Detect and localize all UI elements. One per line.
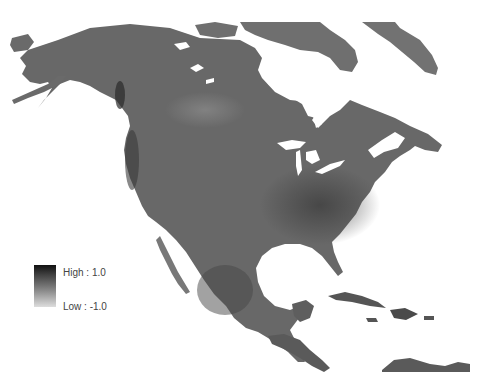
north-america-map bbox=[0, 0, 484, 380]
central-america bbox=[268, 334, 330, 372]
legend-low-label: Low : -1.0 bbox=[63, 301, 107, 312]
hispaniola bbox=[390, 308, 418, 320]
arctic-island-west bbox=[195, 22, 238, 38]
puerto-rico bbox=[424, 316, 434, 320]
map-legend: High : 1.0 Low : -1.0 bbox=[34, 265, 144, 315]
legend-gradient-bar bbox=[34, 265, 56, 307]
pacific-coast-dark bbox=[125, 130, 139, 190]
bc-coast-dark bbox=[115, 81, 125, 109]
prairie-light-region bbox=[165, 92, 245, 128]
greenland bbox=[362, 22, 438, 75]
legend-high-label: High : 1.0 bbox=[63, 267, 106, 278]
mexico-dark bbox=[197, 265, 253, 315]
jamaica bbox=[366, 318, 378, 322]
south-america-edge bbox=[382, 358, 470, 372]
east-us-dark-region bbox=[260, 165, 380, 245]
cuba bbox=[328, 292, 386, 308]
